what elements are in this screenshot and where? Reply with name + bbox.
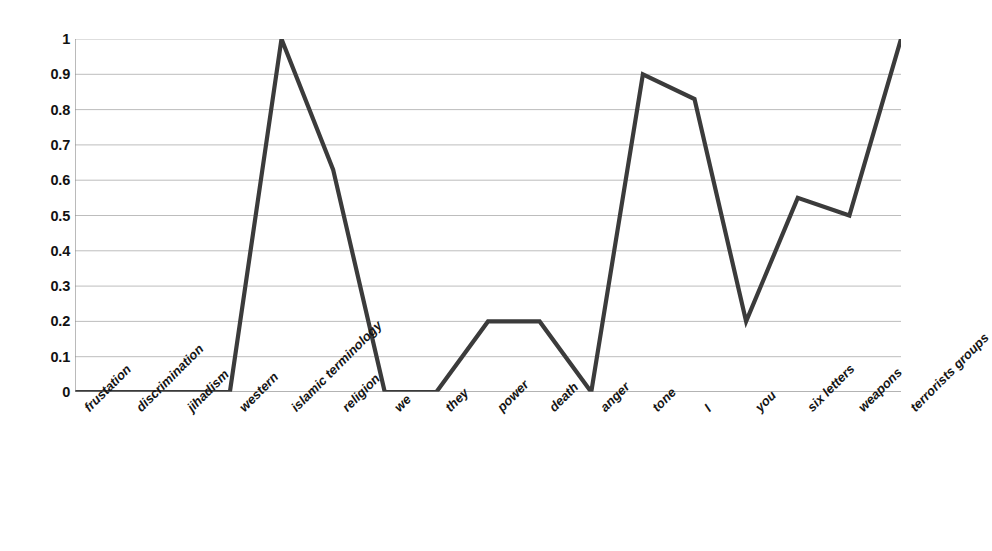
x-axis: frustationdiscriminationjihadismwesterni… [75,392,901,551]
x-axis-tick-label-text: we [391,392,414,415]
x-axis-tick-label: we [391,392,414,415]
y-axis-tick-label: 0.7 [24,138,70,153]
y-axis-tick-label: 0.2 [24,314,70,329]
gridlines [75,39,901,392]
plot-area [75,39,901,392]
y-axis-tick-label: 0 [24,385,70,400]
y-axis-tick-label: 0.5 [24,208,70,223]
x-axis-tick-label-text: you [752,388,779,415]
x-axis-tick-label: you [752,388,779,415]
y-axis-tick-label: 0.1 [24,349,70,364]
x-axis-tick-label-text: I [701,401,714,414]
x-axis-tick-label-text: terrorists groups [907,330,992,415]
y-axis-tick-label: 0.8 [24,102,70,117]
y-axis-tick-label: 0.4 [24,244,70,259]
plot-svg [75,39,901,392]
y-axis-tick-label: 0.9 [24,67,70,82]
y-axis-tick-label: 0.6 [24,173,70,188]
y-axis-tick-label: 0.3 [24,279,70,294]
x-axis-tick-label: I [701,401,714,414]
y-axis-tick-label: 1 [24,32,70,47]
y-axis: 00.10.20.30.40.50.60.70.80.91 [14,0,70,551]
x-axis-tick-label: terrorists groups [907,330,992,415]
